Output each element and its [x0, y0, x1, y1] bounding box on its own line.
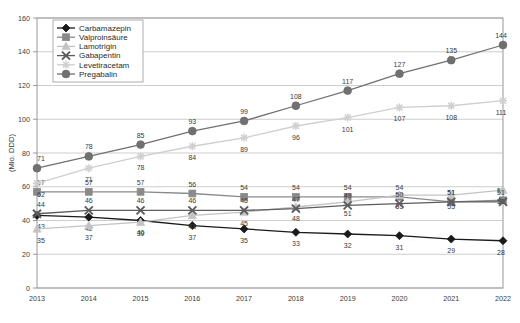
legend-item-valproinsäure[interactable]: Valproinsäure	[57, 33, 128, 42]
marker-star	[344, 114, 352, 122]
data-value-label: 108	[445, 114, 457, 121]
marker-diamond	[344, 230, 352, 238]
data-value-label: 51	[344, 210, 352, 217]
x-axis-tick-label: 2015	[133, 294, 149, 303]
marker-circle	[499, 41, 507, 49]
series-line	[37, 202, 503, 214]
data-value-label: 46	[188, 197, 196, 204]
marker-star	[137, 152, 145, 160]
data-value-label: 28	[497, 249, 505, 256]
data-value-label: 96	[292, 134, 300, 141]
data-value-label: 54	[240, 184, 248, 191]
marker-square	[189, 190, 196, 197]
legend-label: Carbamazepin	[79, 24, 131, 33]
legend-item-pregabalin[interactable]: Pregabalin	[57, 70, 117, 79]
data-value-label: 108	[290, 93, 302, 100]
data-value-label: 54	[344, 184, 352, 191]
marker-star	[240, 134, 248, 142]
marker-diamond	[499, 237, 507, 245]
data-value-label: 93	[188, 118, 196, 125]
data-value-label: 32	[344, 242, 352, 249]
data-value-label: 46	[137, 197, 145, 204]
marker-circle	[447, 56, 455, 64]
data-value-label: 46	[85, 197, 93, 204]
series-labels-carbamazepin: 43424037353332312928	[37, 223, 505, 255]
data-value-label: 39	[137, 230, 145, 237]
series-carbamazepin	[33, 211, 507, 244]
marker-square	[63, 34, 70, 41]
data-value-label: 56	[188, 181, 196, 188]
data-value-label: 78	[137, 164, 145, 171]
data-value-label: 99	[240, 108, 248, 115]
data-value-label: 46	[240, 197, 248, 204]
data-value-label: 54	[292, 184, 300, 191]
x-axis-tick-label: 2013	[29, 294, 45, 303]
series-line	[37, 192, 503, 202]
data-value-label: 71	[37, 155, 45, 162]
data-value-label: 57	[137, 179, 145, 186]
marker-star	[62, 61, 70, 69]
x-axis-labels: 2013201420152016201720182019202020212022	[29, 294, 511, 303]
data-value-label: 31	[396, 244, 404, 251]
marker-circle	[33, 164, 41, 172]
legend: CarbamazepinValproinsäureLamotriginGabap…	[53, 20, 143, 82]
y-axis-tick-label: 0	[26, 284, 30, 293]
data-value-label: 117	[342, 78, 353, 85]
marker-diamond	[395, 232, 403, 240]
y-axis-tick-label: 80	[22, 149, 30, 158]
legend-label: Pregabalin	[79, 70, 117, 79]
data-value-label: 45	[240, 220, 248, 227]
x-axis-tick-label: 2017	[236, 294, 252, 303]
data-value-label: 44	[37, 201, 45, 208]
x-axis-tick-label: 2019	[340, 294, 356, 303]
marker-star	[395, 103, 403, 111]
data-value-label: 71	[85, 176, 93, 183]
marker-star	[499, 97, 507, 105]
marker-star	[33, 179, 41, 187]
series-line	[37, 215, 503, 240]
legend-item-lamotrigin[interactable]: Lamotrigin	[57, 42, 116, 51]
marker-star	[292, 122, 300, 130]
data-value-label: 29	[447, 247, 455, 254]
data-value-label: 51	[497, 189, 505, 196]
marker-circle	[62, 70, 70, 78]
y-axis-tick-label: 100	[18, 115, 30, 124]
legend-label: Valproinsäure	[79, 33, 128, 42]
y-axis-tick-label: 120	[18, 81, 30, 90]
marker-circle	[188, 127, 196, 135]
data-value-label: 35	[37, 237, 45, 244]
marker-circle	[137, 141, 145, 149]
marker-circle	[240, 117, 248, 125]
marker-circle	[85, 152, 93, 160]
y-axis-tick-label: 160	[18, 14, 30, 23]
data-value-label: 101	[342, 126, 354, 133]
y-axis-tick-label: 140	[18, 47, 30, 56]
data-value-label: 37	[188, 234, 196, 241]
marker-star	[188, 142, 196, 150]
series-labels-valproinsäure: 57575756545454545152	[37, 179, 505, 196]
x-axis-tick-label: 2016	[184, 294, 200, 303]
data-value-label: 89	[240, 146, 248, 153]
x-axis-tick-label: 2021	[443, 294, 459, 303]
marker-circle	[344, 87, 352, 95]
data-value-label: 62	[37, 191, 45, 198]
data-value-label: 85	[137, 132, 145, 139]
marker-square	[85, 188, 92, 195]
marker-star	[447, 102, 455, 110]
marker-circle	[396, 70, 404, 78]
data-value-label: 33	[292, 240, 300, 247]
x-axis-tick-label: 2020	[391, 294, 407, 303]
marker-circle	[292, 102, 300, 110]
data-value-label: 47	[292, 196, 300, 203]
y-axis-tick-label: 40	[22, 216, 30, 225]
legend-label: Lamotrigin	[79, 42, 116, 51]
x-axis-tick-label: 2022	[495, 294, 511, 303]
y-axis-title: (Mio. DDD)	[7, 134, 16, 172]
data-value-label: 111	[496, 109, 507, 116]
data-value-label: 78	[85, 143, 93, 150]
data-value-label: 35	[240, 237, 248, 244]
data-value-label: 107	[394, 115, 406, 122]
line-chart: 0204060801001201401602013201420152016201…	[0, 0, 520, 323]
data-value-label: 50	[396, 191, 404, 198]
data-value-label: 49	[344, 192, 352, 199]
